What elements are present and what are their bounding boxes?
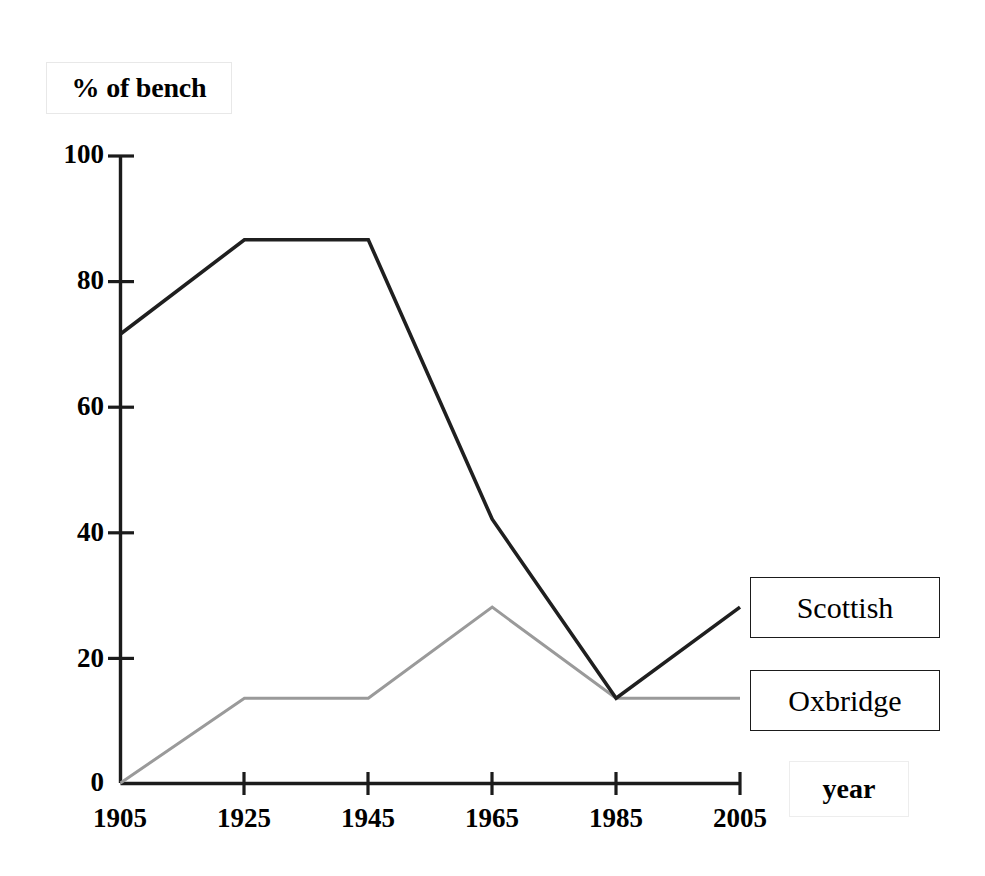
y-tick-label-0: 0 (42, 769, 104, 796)
chart-container: % of bench 100 80 60 40 20 0 (0, 0, 985, 876)
x-tick-label-1945: 1945 (313, 805, 423, 832)
y-tick-label-40: 40 (42, 519, 104, 546)
legend-label-oxbridge: Oxbridge (788, 686, 901, 716)
y-tick-label-80: 80 (42, 267, 104, 294)
legend-item-oxbridge: Oxbridge (750, 670, 940, 731)
x-axis-title: year (789, 761, 909, 817)
x-tick-label-2005: 2005 (685, 805, 795, 832)
y-tick-label-20: 20 (42, 645, 104, 672)
legend-label-scottish: Scottish (797, 593, 894, 623)
plot-area (0, 0, 985, 876)
legend-item-scottish: Scottish (750, 577, 940, 638)
y-tick-label-60: 60 (42, 393, 104, 420)
series-line-scottish (121, 607, 741, 783)
y-tick-label-100: 100 (42, 141, 104, 168)
x-tick-label-1925: 1925 (189, 805, 299, 832)
x-tick-label-1905: 1905 (65, 805, 175, 832)
x-tick-label-1965: 1965 (437, 805, 547, 832)
x-tick-label-1985: 1985 (561, 805, 671, 832)
series-line-oxbridge (121, 240, 741, 698)
x-axis-title-label: year (823, 775, 876, 803)
